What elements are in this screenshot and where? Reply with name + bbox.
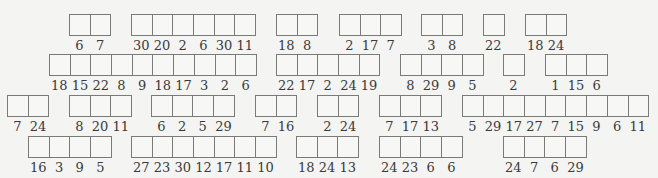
- answer-box[interactable]: [400, 54, 422, 76]
- answer-box[interactable]: [90, 95, 112, 117]
- answer-box[interactable]: [297, 54, 319, 76]
- answer-box[interactable]: [360, 14, 382, 36]
- answer-box[interactable]: [338, 95, 360, 117]
- answer-box[interactable]: [503, 54, 525, 76]
- answer-box[interactable]: [545, 54, 567, 76]
- answer-box[interactable]: [69, 14, 91, 36]
- answer-box[interactable]: [213, 95, 235, 117]
- number-label: 11: [234, 39, 255, 53]
- answer-box[interactable]: [173, 54, 195, 76]
- answer-box[interactable]: [7, 95, 29, 117]
- answer-box[interactable]: [172, 95, 194, 117]
- answer-box[interactable]: [214, 14, 236, 36]
- answer-box[interactable]: [524, 95, 546, 117]
- answer-box[interactable]: [379, 95, 401, 117]
- answer-box[interactable]: [565, 95, 587, 117]
- answer-box[interactable]: [317, 136, 339, 158]
- answer-box[interactable]: [28, 95, 50, 117]
- answer-box[interactable]: [628, 95, 650, 117]
- answer-box[interactable]: [234, 14, 256, 36]
- answer-box[interactable]: [152, 14, 174, 36]
- answer-box[interactable]: [110, 95, 132, 117]
- answer-box[interactable]: [400, 95, 422, 117]
- answer-box[interactable]: [380, 14, 402, 36]
- answer-box[interactable]: [193, 136, 215, 158]
- answer-box[interactable]: [317, 54, 339, 76]
- answer-box[interactable]: [544, 136, 566, 158]
- answer-box[interactable]: [90, 54, 112, 76]
- answer-boxes: [421, 14, 463, 36]
- answer-box[interactable]: [49, 54, 71, 76]
- answer-box[interactable]: [255, 136, 277, 158]
- number-labels: 52917277159611: [462, 120, 649, 134]
- number-label: 22: [276, 79, 297, 93]
- answer-box[interactable]: [337, 136, 359, 158]
- answer-box[interactable]: [28, 136, 50, 158]
- answer-box[interactable]: [442, 14, 464, 36]
- answer-box[interactable]: [421, 14, 443, 36]
- answer-box[interactable]: [565, 136, 587, 158]
- answer-box[interactable]: [255, 95, 277, 117]
- answer-box[interactable]: [132, 54, 154, 76]
- answer-box[interactable]: [586, 95, 608, 117]
- answer-boxes: [379, 136, 463, 158]
- answer-box[interactable]: [296, 136, 318, 158]
- answer-box[interactable]: [441, 54, 463, 76]
- answer-box[interactable]: [69, 95, 91, 117]
- answer-box[interactable]: [193, 14, 215, 36]
- number-label: 24: [546, 39, 567, 53]
- answer-box[interactable]: [503, 136, 525, 158]
- answer-box[interactable]: [483, 95, 505, 117]
- answer-box[interactable]: [441, 136, 463, 158]
- answer-box[interactable]: [545, 95, 567, 117]
- answer-box[interactable]: [420, 136, 442, 158]
- answer-box[interactable]: [400, 136, 422, 158]
- answer-box[interactable]: [546, 14, 568, 36]
- answer-box[interactable]: [297, 14, 319, 36]
- answer-box[interactable]: [379, 136, 401, 158]
- answer-box[interactable]: [131, 136, 153, 158]
- answer-box[interactable]: [525, 14, 547, 36]
- box-group: 221722419: [276, 54, 380, 93]
- answer-box[interactable]: [317, 95, 339, 117]
- answer-box[interactable]: [420, 95, 442, 117]
- answer-box[interactable]: [524, 136, 546, 158]
- box-group: 181522891817326: [49, 54, 257, 93]
- answer-box[interactable]: [359, 54, 381, 76]
- answer-box[interactable]: [194, 54, 216, 76]
- answer-box[interactable]: [339, 14, 361, 36]
- answer-box[interactable]: [586, 54, 608, 76]
- answer-box[interactable]: [131, 14, 153, 36]
- number-label: 9: [441, 79, 462, 93]
- answer-box[interactable]: [607, 95, 629, 117]
- answer-box[interactable]: [70, 54, 92, 76]
- answer-box[interactable]: [276, 14, 298, 36]
- answer-box[interactable]: [462, 95, 484, 117]
- answer-box[interactable]: [276, 95, 298, 117]
- answer-box[interactable]: [151, 95, 173, 117]
- answer-box[interactable]: [214, 136, 236, 158]
- answer-box[interactable]: [215, 54, 237, 76]
- answer-box[interactable]: [172, 14, 194, 36]
- answer-box[interactable]: [503, 95, 525, 117]
- answer-box[interactable]: [69, 136, 91, 158]
- answer-box[interactable]: [234, 136, 256, 158]
- answer-box[interactable]: [235, 54, 257, 76]
- answer-box[interactable]: [192, 95, 214, 117]
- answer-box[interactable]: [152, 54, 174, 76]
- answer-box[interactable]: [49, 136, 71, 158]
- answer-box[interactable]: [462, 54, 484, 76]
- number-label: 30: [131, 39, 152, 53]
- answer-box[interactable]: [338, 54, 360, 76]
- answer-box[interactable]: [566, 54, 588, 76]
- answer-box[interactable]: [90, 14, 112, 36]
- answer-box[interactable]: [421, 54, 443, 76]
- answer-box[interactable]: [90, 136, 112, 158]
- answer-box[interactable]: [152, 136, 174, 158]
- box-group: 242366: [379, 136, 463, 175]
- answer-box[interactable]: [172, 136, 194, 158]
- answer-box[interactable]: [111, 54, 133, 76]
- box-group: 1824: [525, 14, 567, 53]
- answer-box[interactable]: [276, 54, 298, 76]
- answer-box[interactable]: [483, 14, 505, 36]
